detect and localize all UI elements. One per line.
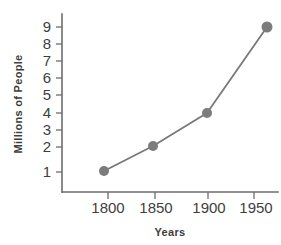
y-tick-label-2: 2 [43,138,51,155]
y-tick-label-3: 3 [43,121,51,138]
x-tick-label-1850: 1850 [139,199,172,216]
y-axis-ticks [56,27,62,172]
y-axis-tick-labels: 9 8 7 6 5 4 3 2 1 [43,18,51,180]
x-axis-tick-labels: 1800 1850 1900 1950 [91,199,272,216]
data-point-1900 [202,108,212,118]
x-tick-label-1800: 1800 [91,199,124,216]
x-axis-title: Years [155,226,186,238]
y-tick-label-8: 8 [43,35,51,52]
y-tick-label-7: 7 [43,52,51,69]
data-point-1800 [99,166,109,176]
y-axis-title: Millions of People [12,55,24,154]
y-tick-label-9: 9 [43,18,51,35]
data-series-population [99,22,273,177]
x-tick-label-1950: 1950 [239,199,272,216]
chart-page: Millions of People Years 9 8 7 6 5 4 3 [0,0,281,245]
line-chart: Millions of People Years 9 8 7 6 5 4 3 [0,0,281,245]
x-tick-label-1900: 1900 [192,199,225,216]
y-tick-label-1: 1 [43,163,51,180]
y-tick-label-4: 4 [43,104,51,121]
y-tick-label-5: 5 [43,86,51,103]
data-point-1850 [148,141,158,151]
x-axis-ticks [108,192,254,199]
series-line-population [104,27,267,171]
data-point-1950 [262,22,273,33]
y-tick-label-6: 6 [43,69,51,86]
